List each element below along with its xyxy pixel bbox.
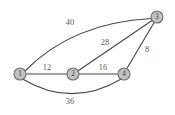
graph-figure: 40 28 8 12 16 36 1 2 3 4 [0, 0, 175, 115]
node-4[interactable]: 4 [118, 68, 130, 80]
edge-weight-1-3: 40 [66, 18, 74, 27]
node-3-label: 3 [155, 13, 159, 21]
edge-3-4[interactable] [127, 23, 154, 69]
node-4-label: 4 [122, 70, 126, 78]
edge-weight-3-4: 8 [145, 45, 149, 54]
edge-weight-2-3: 28 [101, 38, 109, 47]
edge-weight-1-4: 36 [66, 97, 74, 106]
node-1-label: 1 [18, 70, 22, 78]
graph-canvas: 40 28 8 12 16 36 1 2 3 4 [0, 0, 175, 115]
node-3[interactable]: 3 [151, 11, 163, 23]
node-2-label: 2 [71, 70, 75, 78]
node-2[interactable]: 2 [67, 68, 79, 80]
node-1[interactable]: 1 [14, 68, 26, 80]
edge-layer [24, 19, 155, 94]
edge-weight-1-2: 12 [43, 63, 51, 72]
edge-weight-2-4: 16 [99, 63, 107, 72]
edge-1-4[interactable] [24, 79, 121, 93]
